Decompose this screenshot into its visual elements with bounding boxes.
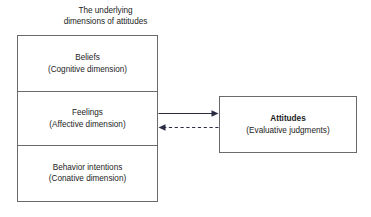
dimensions-to-attitudes-arrow [159,110,219,116]
attitudes-to-dimensions-arrow-head-icon [159,124,166,130]
connector-arrows [0,0,371,217]
attitudes-dimensions-diagram: The underlying dimensions of attitudes B… [0,0,371,217]
dimensions-to-attitudes-arrow-head-icon [212,110,219,116]
attitudes-to-dimensions-arrow [159,124,219,130]
